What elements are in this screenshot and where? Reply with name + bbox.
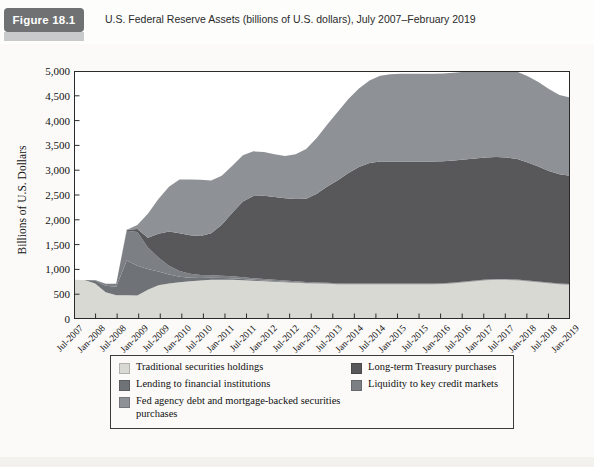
figure-title: U.S. Federal Reserve Assets (billions of… [105,13,476,25]
legend-column-left: Traditional securities holdingsLending t… [119,361,359,422]
figure-number-label: Figure 18.1 [13,14,76,26]
y-tick-label-5: 2,500 [26,189,70,201]
legend-label: Liquidity to key credit markets [368,378,498,391]
legend-right-item-0: Long-term Treasury purchases [351,361,511,376]
chart-container: Billions of U.S. Dollars 05001,0001,5002… [0,44,594,467]
plot-area [74,71,570,319]
y-tick-label-2: 1,000 [26,263,70,275]
y-tick-label-7: 3,500 [26,139,70,151]
y-tick-label-3: 1,500 [26,239,70,251]
legend-swatch-icon [119,380,130,391]
legend-column-right: Long-term Treasury purchasesLiquidity to… [351,361,511,395]
legend-swatch-icon [351,380,362,391]
legend-left-item-0: Traditional securities holdings [119,361,359,376]
figure-page: Figure 18.1 U.S. Federal Reserve Assets … [0,0,594,467]
figure-badge-shadow [4,32,84,41]
legend-left-item-2: Fed agency debt and mortgage-backed secu… [119,395,359,420]
y-tick-label-10: 5,000 [26,65,70,77]
figure-number-badge: Figure 18.1 [4,8,84,32]
legend-swatch-icon [351,363,362,374]
figure-header: Figure 18.1 U.S. Federal Reserve Assets … [0,0,594,44]
y-tick-label-0: 0 [26,313,70,325]
legend-swatch-icon [119,363,130,374]
y-tick-label-6: 3,000 [26,164,70,176]
page-bottom-edge [0,457,594,467]
legend-right-item-1: Liquidity to key credit markets [351,378,511,393]
y-axis-tick-labels: 05001,0001,5002,0002,5003,0003,5004,0004… [22,71,70,319]
chart-legend: Traditional securities holdingsLending t… [110,355,514,429]
legend-left-item-1: Lending to financial institutions [119,378,359,393]
legend-swatch-icon [119,397,130,408]
legend-label: Fed agency debt and mortgage-backed secu… [136,395,359,420]
y-tick-label-9: 4,500 [26,90,70,102]
legend-label: Traditional securities holdings [136,361,263,374]
y-tick-label-1: 500 [26,288,70,300]
legend-label: Lending to financial institutions [136,378,270,391]
y-tick-label-4: 2,000 [26,214,70,226]
stacked-area-chart [74,71,570,319]
y-tick-label-8: 4,000 [26,115,70,127]
legend-label: Long-term Treasury purchases [368,361,496,374]
